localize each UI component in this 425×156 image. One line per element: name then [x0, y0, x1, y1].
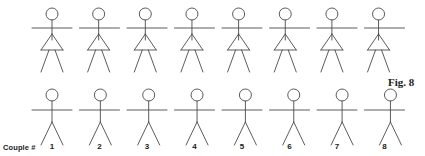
bottom-row-figure-5 [222, 89, 262, 145]
top-row-figure-5 [222, 8, 262, 72]
head-icon [233, 8, 245, 20]
skirt-left-line [134, 34, 145, 50]
left-leg-line [321, 50, 329, 72]
couple-axis-label: Couple # [3, 143, 35, 152]
skirt-right-line [239, 34, 250, 50]
skirt-right-line [145, 34, 156, 50]
right-leg-line [102, 50, 110, 72]
right-leg-line [148, 50, 156, 72]
head-icon [336, 89, 348, 101]
head-icon [46, 89, 58, 101]
bottom-row-figure-2 [80, 89, 120, 145]
head-icon [46, 8, 58, 20]
left-leg-line [228, 50, 236, 72]
bottom-row-figure-7 [317, 89, 357, 145]
couple-number-5: 5 [232, 142, 252, 151]
skirt-right-line [332, 34, 343, 50]
bottom-row-figure-1 [32, 89, 72, 145]
left-leg-line [41, 50, 49, 72]
head-icon [186, 8, 198, 20]
head-icon [191, 89, 203, 101]
skirt-right-line [192, 34, 203, 50]
skirt-right-line [99, 34, 110, 50]
head-icon [139, 8, 151, 20]
right-leg-line [288, 50, 296, 72]
skirt-left-line [41, 34, 52, 50]
top-row-figure-1 [32, 8, 72, 72]
couple-number-3: 3 [137, 142, 157, 151]
head-icon [384, 89, 396, 101]
couple-number-1: 1 [42, 142, 62, 151]
bottom-row-figure-6 [270, 89, 310, 145]
head-icon [94, 89, 106, 101]
skirt-left-line [88, 34, 99, 50]
left-leg-line [274, 50, 282, 72]
skirt-left-line [321, 34, 332, 50]
top-row-figure-6 [270, 8, 310, 72]
skirt-left-line [228, 34, 239, 50]
top-row-figure-8 [365, 8, 405, 72]
skirt-left-line [368, 34, 379, 50]
head-icon [143, 89, 155, 101]
top-row-figure-3 [127, 8, 167, 72]
right-leg-line [55, 50, 63, 72]
head-icon [279, 8, 291, 20]
right-leg-line [335, 50, 343, 72]
head-icon [326, 8, 338, 20]
bottom-row-figure-4 [175, 89, 215, 145]
bottom-row-figure-8 [365, 89, 405, 145]
skirt-left-line [181, 34, 192, 50]
skirt-left-line [274, 34, 285, 50]
head-icon [93, 8, 105, 20]
left-leg-line [368, 50, 376, 72]
right-leg-line [382, 50, 390, 72]
left-leg-line [88, 50, 96, 72]
left-leg-line [134, 50, 142, 72]
skirt-right-line [379, 34, 390, 50]
top-row-figure-7 [317, 8, 357, 72]
head-icon [239, 89, 251, 101]
couple-number-8: 8 [375, 142, 395, 151]
left-leg-line [181, 50, 189, 72]
right-leg-line [195, 50, 203, 72]
top-row-figure-4 [175, 8, 215, 72]
right-leg-line [242, 50, 250, 72]
couple-number-6: 6 [280, 142, 300, 151]
head-icon [373, 8, 385, 20]
bottom-row-figure-3 [127, 89, 167, 145]
skirt-right-line [52, 34, 63, 50]
couple-number-7: 7 [327, 142, 347, 151]
skirt-right-line [285, 34, 296, 50]
couple-number-2: 2 [90, 142, 110, 151]
figure-caption: Fig. 8 [388, 76, 414, 88]
top-row-figure-2 [80, 8, 120, 72]
couple-number-4: 4 [185, 142, 205, 151]
stick-figure-diagram [0, 0, 425, 156]
head-icon [288, 89, 300, 101]
